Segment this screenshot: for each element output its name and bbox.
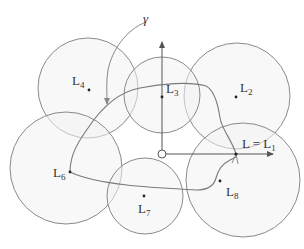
landmark-dot-l4 xyxy=(88,89,91,92)
landmark-label-l4: L4 xyxy=(72,74,84,90)
gamma-label: γ xyxy=(143,12,148,25)
landmark-label-l7: L7 xyxy=(138,202,150,218)
landmark-dot-l7 xyxy=(143,195,146,198)
landmark-dot-l2 xyxy=(235,96,238,99)
landmark-dot-l6 xyxy=(69,171,72,174)
landmark-label-l1: L = L1 xyxy=(242,137,276,153)
landmark-dot-l1 xyxy=(234,152,237,155)
landmark-dot-l3 xyxy=(161,96,164,99)
landmark-dot-l8 xyxy=(219,180,222,183)
landmark-label-l3: L3 xyxy=(166,82,178,98)
landmark-path-diagram xyxy=(0,0,304,249)
landmark-label-l8: L8 xyxy=(226,185,238,201)
region-circle-l6 xyxy=(10,112,122,224)
landmark-label-l2: L2 xyxy=(240,81,252,97)
origin-marker xyxy=(158,150,166,158)
landmark-label-l6: L6 xyxy=(53,166,65,182)
